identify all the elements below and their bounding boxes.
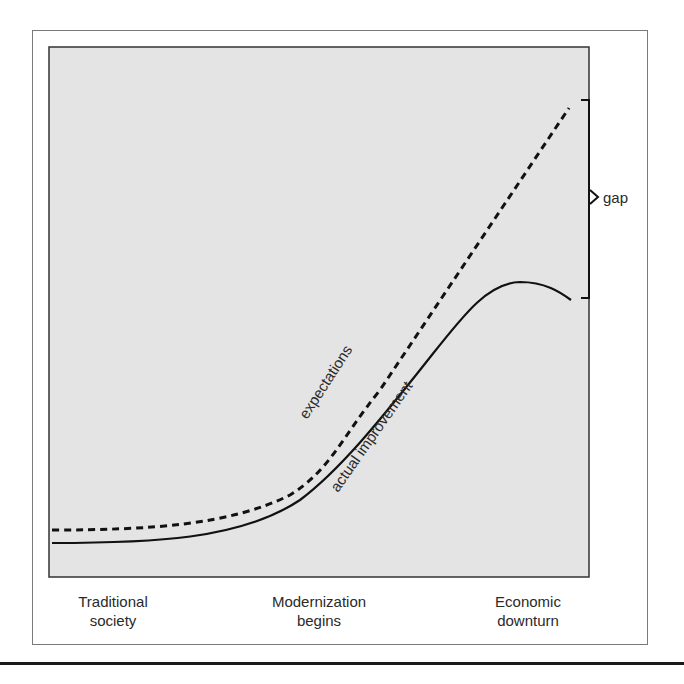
chart-plot: expectations actual improvement bbox=[0, 0, 684, 684]
bottom-rule bbox=[0, 662, 684, 665]
x-label-economic-downturn: Economic downturn bbox=[448, 592, 608, 630]
x-label-modernization-begins: Modernization begins bbox=[239, 592, 399, 630]
plot-area bbox=[49, 47, 589, 577]
x-label-traditional-society: Traditional society bbox=[33, 592, 193, 630]
gap-label: gap bbox=[603, 189, 628, 206]
